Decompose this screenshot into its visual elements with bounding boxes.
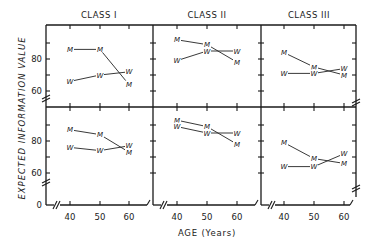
data-point-marker: W <box>341 65 349 73</box>
data-point-marker: W <box>97 147 105 155</box>
data-point-marker: W <box>311 163 319 171</box>
svg-text:50: 50 <box>309 212 320 222</box>
data-point-marker: W <box>311 70 319 78</box>
svg-text:40: 40 <box>172 212 183 222</box>
panel-title-class-3: CLASS III <box>288 10 330 20</box>
data-point-marker: M <box>311 155 317 163</box>
data-point-marker: M <box>281 139 287 147</box>
data-point-marker: M <box>234 141 240 149</box>
y-tick-bottom-60: 60 <box>31 168 42 178</box>
x-tick-labels: 40 50 60 40 50 60 40 50 60 <box>65 212 350 222</box>
data-point-marker: M <box>126 81 132 89</box>
data-point-marker: W <box>234 130 242 138</box>
data-point-marker: W <box>174 123 182 131</box>
svg-text:40: 40 <box>279 212 290 222</box>
y-tick-top-60: 60 <box>31 86 42 96</box>
data-point-marker: W <box>281 70 289 78</box>
data-point-marker: M <box>174 36 180 44</box>
data-point-marker: W <box>67 78 75 86</box>
y-tick-zero: 0 <box>37 200 42 210</box>
data-point-marker: W <box>67 144 75 152</box>
svg-text:50: 50 <box>202 212 213 222</box>
data-point-marker: W <box>204 48 212 56</box>
data-point-marker: W <box>126 68 134 76</box>
data-point-marker: M <box>97 46 103 54</box>
svg-text:40: 40 <box>65 212 76 222</box>
y-tick-bottom-80: 80 <box>31 136 42 146</box>
y-tick-top-80: 80 <box>31 54 42 64</box>
data-point-marker: M <box>67 126 73 134</box>
data-point-marker: W <box>97 72 105 80</box>
data-point-marker: W <box>281 163 289 171</box>
data-point-marker: W <box>341 150 349 158</box>
svg-text:60: 60 <box>339 212 350 222</box>
data-point-marker: W <box>126 142 134 150</box>
panel-top-3: MMMWWW <box>280 49 349 80</box>
panel-top-2: MMMWWW <box>173 36 242 67</box>
x-axis-label: AGE (Years) <box>178 228 236 238</box>
panel-bottom-1: MMMWWW <box>66 126 134 157</box>
panel-title-class-2: CLASS II <box>187 10 226 20</box>
y-axis-label: EXPECTED INFORMATION VALUE <box>17 36 27 199</box>
data-point-marker: W <box>174 57 182 65</box>
data-point-marker: W <box>234 48 242 56</box>
data-point-marker: M <box>341 160 347 168</box>
data-point-marker: W <box>204 130 212 138</box>
svg-text:50: 50 <box>95 212 106 222</box>
panel-bottom-2: MMMWWW <box>173 116 242 149</box>
panel-bottom-3: MMMWWW <box>280 139 349 172</box>
svg-text:60: 60 <box>124 212 135 222</box>
data-point-marker: M <box>234 59 240 67</box>
panel-top-1: MMMWWW <box>66 45 134 89</box>
panel-title-class-1: CLASS I <box>81 10 117 20</box>
data-point-marker: M <box>281 49 287 57</box>
line-chart: CLASS I CLASS II CLASS III EXPECTED INFO… <box>0 0 382 246</box>
svg-text:60: 60 <box>232 212 243 222</box>
data-point-marker: M <box>97 131 103 139</box>
data-point-marker: M <box>67 46 73 54</box>
